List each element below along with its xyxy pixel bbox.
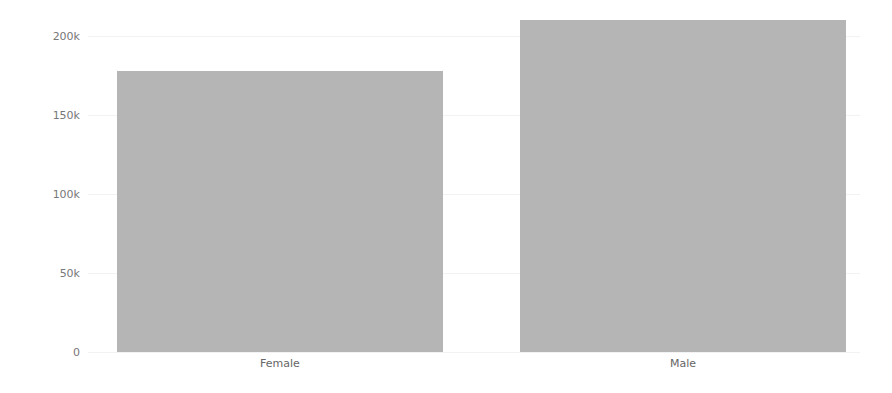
bar-female[interactable] — [117, 71, 443, 352]
y-tick-label: 50k — [60, 267, 80, 280]
y-tick-label: 200k — [53, 30, 80, 43]
y-tick-label: 150k — [53, 109, 80, 122]
x-tick-label: Female — [260, 357, 300, 370]
bar-male[interactable] — [520, 20, 846, 352]
gridline — [88, 352, 860, 353]
x-tick-label: Male — [670, 357, 696, 370]
bar-chart: 050k100k150k200k FemaleMale — [0, 0, 892, 393]
y-tick-label: 100k — [53, 188, 80, 201]
y-tick-label: 0 — [73, 346, 80, 359]
